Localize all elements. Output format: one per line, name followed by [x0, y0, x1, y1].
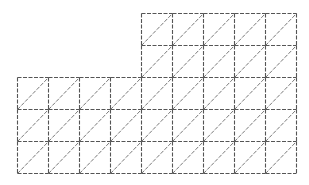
- cell-diagonal: [266, 46, 297, 78]
- mesh-lines: [18, 14, 297, 174]
- cell-diagonal: [18, 142, 49, 174]
- cell-diagonal: [266, 78, 297, 110]
- cell-diagonal: [173, 14, 204, 46]
- cell-diagonal: [173, 46, 204, 78]
- cell-diagonal: [173, 110, 204, 142]
- cell-diagonal: [235, 78, 266, 110]
- cell-diagonal: [80, 142, 111, 174]
- cell-diagonal: [235, 110, 266, 142]
- cell-diagonal: [204, 78, 235, 110]
- cell-diagonal: [49, 78, 80, 110]
- cell-diagonal: [173, 142, 204, 174]
- cell-diagonal: [235, 14, 266, 46]
- cell-diagonal: [235, 46, 266, 78]
- cell-diagonal: [142, 110, 173, 142]
- cell-diagonal: [266, 110, 297, 142]
- cell-diagonal: [142, 142, 173, 174]
- cell-diagonal: [18, 78, 49, 110]
- cell-diagonal: [111, 78, 142, 110]
- cell-diagonal: [80, 110, 111, 142]
- triangulated-mesh-diagram: [0, 0, 309, 185]
- cell-diagonal: [204, 14, 235, 46]
- cell-diagonal: [266, 142, 297, 174]
- cell-diagonal: [204, 46, 235, 78]
- cell-diagonal: [204, 110, 235, 142]
- cell-diagonal: [142, 78, 173, 110]
- cell-diagonal: [204, 142, 235, 174]
- cell-diagonal: [80, 78, 111, 110]
- cell-diagonal: [142, 46, 173, 78]
- cell-diagonal: [111, 142, 142, 174]
- cell-diagonal: [235, 142, 266, 174]
- cell-diagonal: [142, 14, 173, 46]
- cell-diagonal: [49, 142, 80, 174]
- cell-diagonal: [18, 110, 49, 142]
- cell-diagonal: [111, 110, 142, 142]
- cell-diagonal: [266, 14, 297, 46]
- cell-diagonal: [173, 78, 204, 110]
- cell-diagonal: [49, 110, 80, 142]
